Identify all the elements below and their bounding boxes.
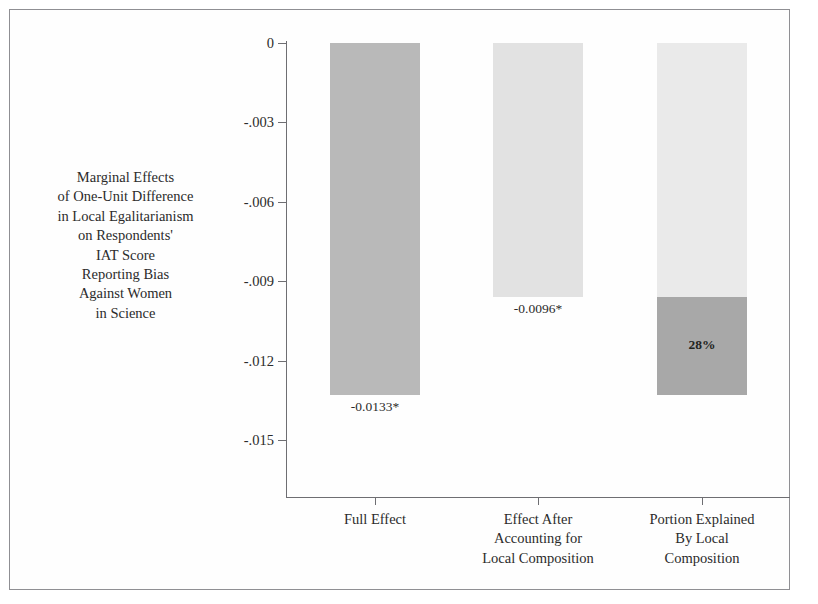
x-category-label: Full Effect [285,510,465,529]
x-category-label-line: Accounting for [448,529,628,548]
x-category-label-line: Effect After [448,510,628,529]
x-category-label-line: Local Composition [448,549,628,568]
bar-segment[interactable] [493,43,583,297]
y-tick-label: -.012 [212,352,274,369]
x-category-label-line: Composition [612,549,792,568]
bar[interactable] [330,43,420,395]
y-axis-title-line-6: Reporting Bias [18,265,233,284]
y-tick-mark [278,43,286,44]
y-axis-title-line-8: in Science [18,304,233,323]
y-tick-mark [278,202,286,203]
y-axis-title-line-2: of One-Unit Difference [18,187,233,206]
y-tick-label: -.015 [212,432,274,449]
y-tick-mark [278,440,286,441]
x-category-label: Effect AfterAccounting forLocal Composit… [448,510,628,568]
y-axis-title-line-3: in Local Egalitarianism [18,207,233,226]
y-tick-label: -.009 [212,273,274,290]
y-tick-label: -.003 [212,114,274,131]
x-category-label-line: Portion Explained [612,510,792,529]
x-tick-mark [702,498,703,505]
x-category-label-line: Full Effect [285,510,465,529]
y-axis-title-line-7: Against Women [18,284,233,303]
bar-value-label: -0.0096* [468,301,608,317]
x-tick-mark [375,498,376,505]
y-axis-title-line-4: on Respondents' [18,226,233,245]
y-axis-title-line-1: Marginal Effects [18,168,233,187]
bar-value-label: -0.0133* [305,399,445,415]
y-tick-label: 0 [212,35,274,52]
bar-segment[interactable] [330,43,420,395]
bar-chart: Marginal Effects of One-Unit Difference … [0,0,818,604]
y-tick-mark [278,281,286,282]
bar[interactable] [493,43,583,297]
y-axis-title-line-5: IAT Score [18,246,233,265]
y-tick-mark [278,122,286,123]
bar-inner-label: 28% [652,337,752,353]
x-category-label-line: By Local [612,529,792,548]
y-axis-title: Marginal Effects of One-Unit Difference … [18,168,233,323]
bar-segment[interactable] [657,43,747,297]
x-category-label: Portion ExplainedBy LocalComposition [612,510,792,568]
y-axis-tick-labels: 0-.003-.006-.009-.012-.015 [210,0,274,604]
y-tick-mark [278,361,286,362]
x-tick-mark [538,498,539,505]
y-axis-line [286,41,287,498]
y-tick-label: -.006 [212,193,274,210]
